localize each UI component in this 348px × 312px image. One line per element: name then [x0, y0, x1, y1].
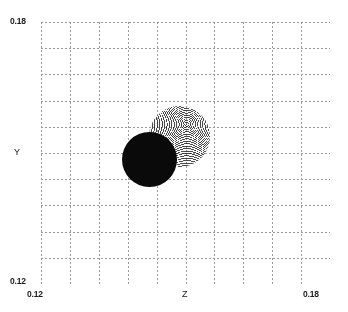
y-axis-min-tick-label: 0.12	[10, 276, 26, 286]
y-axis-max-tick-label: 0.18	[10, 16, 26, 26]
plot-area	[41, 22, 330, 284]
x-axis-min-tick-label: 0.12	[27, 289, 43, 299]
x-axis-max-tick-label: 0.18	[303, 289, 319, 299]
x-axis-title: Z	[182, 289, 188, 299]
scatter-plot-figure: 0.18 0.12 0.12 0.18 Y Z	[0, 0, 348, 312]
data-point-clouds	[41, 22, 330, 284]
y-axis-title: Y	[14, 147, 20, 157]
point-cloud-cluster-dark	[122, 132, 177, 187]
